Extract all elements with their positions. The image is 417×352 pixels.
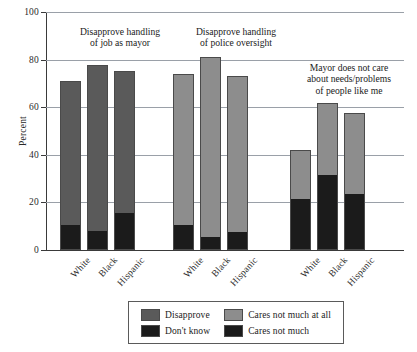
y-tick-mark — [41, 202, 46, 203]
legend-item: Cares not much — [224, 325, 331, 337]
group-annotation-2: Disapprove handlingof police oversight — [172, 26, 300, 49]
category-label-hispanic: Hispanic — [345, 255, 376, 288]
bar-segment — [227, 76, 248, 232]
bar — [344, 114, 365, 250]
category-label-white: White — [299, 255, 323, 280]
y-tick-mark — [41, 60, 46, 61]
category-label-black: Black — [326, 255, 349, 279]
legend-label: Disapprove — [165, 310, 210, 320]
y-tick-mark — [41, 12, 46, 13]
annotation-line: about needs/problems — [284, 73, 414, 84]
bar — [290, 151, 311, 250]
annotation-line: of police oversight — [172, 37, 300, 48]
bar-segment — [227, 231, 248, 250]
bar-segment — [114, 212, 135, 250]
legend-item: Don't know — [141, 325, 210, 337]
bar-segment — [60, 224, 81, 250]
annotation-line: Disapprove handling — [172, 26, 300, 37]
y-tick-label: 80 — [29, 55, 39, 65]
gridline — [46, 60, 404, 61]
bar-segment — [173, 224, 194, 250]
category-label-white: White — [69, 255, 93, 280]
bar — [114, 72, 135, 251]
y-tick-mark — [41, 107, 46, 108]
category-label-white: White — [182, 255, 206, 280]
bar-segment — [344, 113, 365, 194]
legend-item: Cares not much at all — [224, 309, 331, 321]
y-tick-label: 40 — [29, 150, 39, 160]
legend-item: Disapprove — [141, 309, 210, 321]
legend-label: Cares not much at all — [248, 310, 331, 320]
bar-segment — [290, 198, 311, 250]
chart-legend: DisapproveCares not much at allDon't kno… — [128, 301, 344, 344]
annotation-line: Disapprove handling — [56, 26, 184, 37]
bar-segment — [173, 74, 194, 225]
annotation-line: Mayor does not care — [284, 62, 414, 73]
bar-segment — [60, 81, 81, 225]
bar-segment — [290, 150, 311, 199]
bar-segment — [87, 65, 108, 231]
y-tick-label: 60 — [29, 102, 39, 112]
y-axis-title: Percent — [18, 116, 28, 146]
x-axis-line — [46, 250, 404, 251]
annotation-line: of people like me — [284, 85, 414, 96]
y-tick-mark — [41, 155, 46, 156]
legend-label: Don't know — [165, 326, 210, 336]
legend-swatch — [141, 325, 160, 337]
bar-segment — [87, 230, 108, 250]
legend-swatch — [224, 309, 243, 321]
y-tick-label: 20 — [29, 197, 39, 207]
y-tick-mark — [41, 250, 46, 251]
y-axis-line — [46, 12, 47, 251]
bar — [87, 66, 108, 250]
category-label-black: Black — [96, 255, 119, 279]
bar — [200, 58, 221, 250]
y-tick-label: 0 — [34, 245, 39, 255]
category-label-hispanic: Hispanic — [115, 255, 146, 288]
category-label-black: Black — [209, 255, 232, 279]
stacked-bar-chart: Percent 020406080100 WhiteBlackHispanicW… — [0, 0, 417, 352]
y-tick-label: 100 — [24, 7, 39, 17]
bar-segment — [114, 71, 135, 214]
group-annotation-3: Mayor does not careabout needs/problemso… — [284, 62, 414, 96]
bar — [317, 104, 338, 250]
bar-segment — [200, 57, 221, 237]
bar — [173, 75, 194, 250]
legend-swatch — [224, 325, 243, 337]
legend-label: Cares not much — [248, 326, 309, 336]
bar-segment — [317, 174, 338, 250]
bar-segment — [200, 236, 221, 250]
bar — [60, 82, 81, 250]
legend-swatch — [141, 309, 160, 321]
category-label-hispanic: Hispanic — [228, 255, 259, 288]
bar-segment — [317, 103, 338, 175]
bar — [227, 77, 248, 250]
gridline — [46, 12, 404, 13]
group-annotation-1: Disapprove handlingof job as mayor — [56, 26, 184, 49]
annotation-line: of job as mayor — [56, 37, 184, 48]
bar-segment — [344, 193, 365, 250]
